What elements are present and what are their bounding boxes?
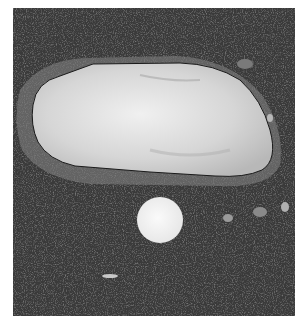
small-pebble [237, 59, 253, 69]
small-pebble [253, 207, 267, 217]
small-pebble [223, 214, 233, 222]
small-pebble [281, 202, 289, 212]
coin [137, 197, 183, 243]
small-pebble [102, 274, 118, 278]
small-pebble [267, 114, 273, 122]
photograph [13, 8, 295, 316]
pebble [32, 63, 272, 176]
scene [13, 8, 295, 316]
